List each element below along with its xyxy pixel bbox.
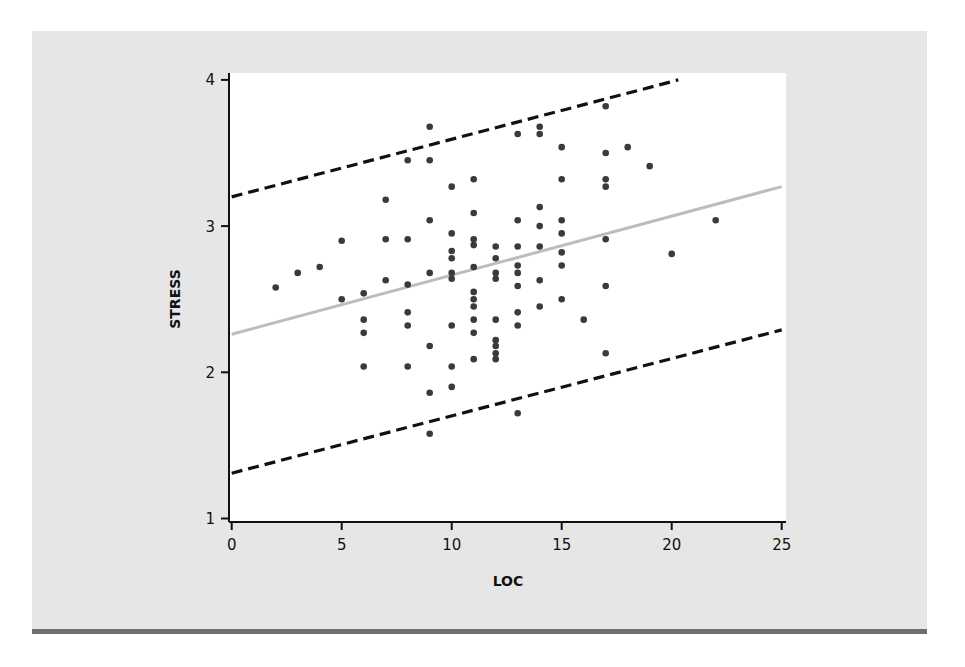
data-point [602, 150, 609, 157]
data-point [316, 264, 323, 271]
data-point [294, 270, 301, 277]
data-point [536, 303, 543, 310]
data-point [426, 157, 433, 164]
data-point [448, 230, 455, 237]
data-point [580, 316, 587, 323]
data-point [602, 176, 609, 183]
data-point [492, 350, 499, 357]
data-point [558, 144, 565, 151]
data-point [602, 283, 609, 290]
data-point [668, 251, 675, 258]
data-point [272, 284, 279, 291]
data-point [514, 243, 521, 250]
data-point [492, 243, 499, 250]
data-point [492, 270, 499, 277]
data-point [448, 363, 455, 370]
data-point [558, 296, 565, 303]
data-point [338, 237, 345, 244]
data-point [470, 289, 477, 296]
data-point [712, 217, 719, 224]
data-point [514, 283, 521, 290]
data-point [492, 337, 499, 344]
data-point [558, 249, 565, 256]
data-point [404, 281, 411, 288]
data-point [470, 264, 477, 271]
data-point [470, 356, 477, 363]
data-point [514, 309, 521, 316]
data-point [536, 277, 543, 284]
data-point [448, 248, 455, 255]
plot-area [229, 73, 786, 522]
data-point [514, 131, 521, 138]
data-point [536, 204, 543, 211]
data-point [558, 262, 565, 269]
x-tick-label: 0 [227, 536, 237, 554]
data-point [404, 309, 411, 316]
data-point [470, 210, 477, 217]
data-point [448, 255, 455, 262]
data-point [514, 322, 521, 329]
y-axis-title: STRESS [167, 269, 183, 329]
data-point [404, 236, 411, 243]
scatter-chart: 0510152025 1234 LOC STRESS [0, 0, 965, 667]
data-point [426, 123, 433, 130]
x-tick-label: 25 [772, 536, 791, 554]
data-point [360, 363, 367, 370]
data-point [492, 356, 499, 363]
data-point [404, 322, 411, 329]
x-tick-label: 20 [662, 536, 681, 554]
data-point [536, 131, 543, 138]
data-point [536, 123, 543, 130]
data-point [646, 163, 653, 170]
data-point [492, 255, 499, 262]
data-point [492, 343, 499, 350]
data-point [514, 410, 521, 417]
data-point [404, 157, 411, 164]
data-point [558, 176, 565, 183]
data-point [338, 296, 345, 303]
data-point [426, 430, 433, 437]
data-point [536, 223, 543, 230]
data-point [470, 296, 477, 303]
data-point [448, 275, 455, 282]
data-point [426, 270, 433, 277]
data-point [448, 270, 455, 277]
data-point [426, 389, 433, 396]
data-point [470, 176, 477, 183]
data-point [360, 316, 367, 323]
data-point [448, 183, 455, 190]
y-tick-label: 4 [205, 71, 215, 89]
data-point [602, 103, 609, 110]
data-point [514, 270, 521, 277]
data-point [514, 217, 521, 224]
data-point [624, 144, 631, 151]
data-point [448, 384, 455, 391]
y-tick-label: 2 [205, 364, 215, 382]
data-point [448, 322, 455, 329]
data-point [382, 236, 389, 243]
data-point [404, 363, 411, 370]
x-tick-label: 15 [552, 536, 571, 554]
y-tick-label: 1 [205, 510, 215, 528]
data-point [426, 217, 433, 224]
data-point [602, 350, 609, 357]
data-point [536, 243, 543, 250]
data-point [470, 316, 477, 323]
data-point [492, 275, 499, 282]
data-point [470, 242, 477, 249]
x-axis-title: LOC [493, 573, 524, 589]
data-point [382, 196, 389, 203]
y-tick-label: 3 [205, 218, 215, 236]
x-tick-label: 5 [337, 536, 347, 554]
data-point [470, 303, 477, 310]
data-point [558, 217, 565, 224]
y-axis-ticks: 1234 [205, 71, 229, 528]
x-axis-ticks: 0510152025 [227, 522, 791, 554]
data-point [602, 236, 609, 243]
data-point [426, 343, 433, 350]
x-tick-label: 10 [442, 536, 461, 554]
data-point [602, 183, 609, 190]
data-point [470, 236, 477, 243]
data-point [558, 230, 565, 237]
data-point [470, 330, 477, 337]
